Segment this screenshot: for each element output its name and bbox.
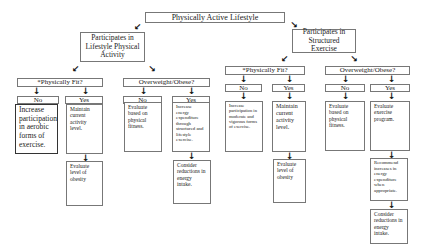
structured-overweight-no-action: Evaluate based on physical fitness. <box>325 101 365 151</box>
lifestyle-fit-yes-followup: Evaluate level of obesity <box>66 161 103 206</box>
structured-overweight-question: Overweight/Obese? <box>325 66 410 75</box>
lifestyle-fit-no-action: Increase participation in aerobic forms … <box>15 104 58 154</box>
arrow-down-icon: ↓ <box>33 87 41 96</box>
structured-fit-no-action: Increase participation in moderate and v… <box>225 101 263 152</box>
lifestyle-fit-yes-action: Maintain current activity level. <box>66 104 103 154</box>
lifestyle-fit-question: *Physically Fit? <box>17 78 103 87</box>
arrow-down-icon: ↓ <box>388 75 396 84</box>
structured-overweight-yes-action: Evaluate exercise program. <box>370 101 410 151</box>
arrow-down-left-icon: ↙ <box>281 55 289 64</box>
arrow-down-icon: ↓ <box>342 75 350 84</box>
arrow-down-right-icon: ↘ <box>148 65 156 74</box>
arrow-down-icon: ↓ <box>82 87 90 96</box>
arrow-down-icon: ↓ <box>388 92 396 101</box>
arrow-down-icon: ↓ <box>342 92 350 101</box>
structured-node: Participates in Structured Exercise <box>292 29 356 53</box>
lifestyle-overweight-yes-followup: Consider reductions in energy intake. <box>173 160 211 204</box>
structured-overweight-yes-followup2: Consider reductions in energy intake. <box>370 209 408 244</box>
structured-fit-yes-followup: Evaluate level of obesity <box>273 159 306 203</box>
lifestyle-node: Participates in Lifestyle Physical Activ… <box>80 32 145 62</box>
structured-overweight-yes-followup: Recommend increases in energy expenditur… <box>370 158 408 201</box>
arrow-down-icon: ↓ <box>240 75 248 84</box>
lifestyle-overweight-yes-action: Increase energy expenditure through stru… <box>172 102 210 152</box>
arrow-down-left-icon: ↙ <box>72 65 80 74</box>
lifestyle-overweight-question: Overweight/Obese? <box>123 78 210 87</box>
arrow-down-icon: ↓ <box>286 92 294 101</box>
root-node: Physically Active Lifestyle <box>145 12 285 23</box>
arrow-down-right-icon: ↘ <box>350 55 358 64</box>
structured-fit-yes-action: Maintain current activity level. <box>272 101 306 152</box>
arrow-down-icon: ↓ <box>240 92 248 101</box>
arrow-down-icon: ↓ <box>188 87 196 96</box>
arrow-down-left-icon: ↙ <box>134 23 142 32</box>
arrow-down-icon: ↓ <box>286 75 294 84</box>
arrow-down-icon: ↓ <box>140 87 148 96</box>
lifestyle-overweight-no-action: Evaluate based on physical fitness. <box>124 102 162 152</box>
